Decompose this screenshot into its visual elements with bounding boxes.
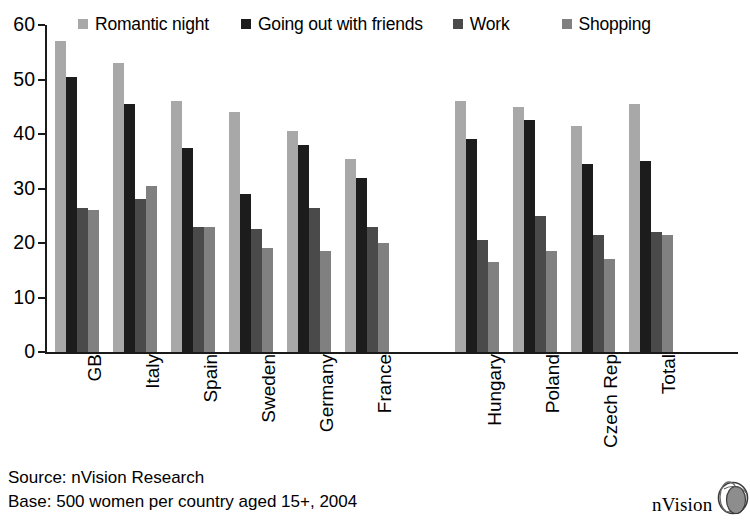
bar[interactable] bbox=[466, 139, 477, 352]
globe-icon bbox=[716, 480, 750, 520]
bar-group bbox=[629, 25, 673, 352]
bar[interactable] bbox=[251, 229, 262, 352]
bar[interactable] bbox=[571, 126, 582, 352]
bar[interactable] bbox=[135, 199, 146, 352]
bar-group bbox=[571, 25, 615, 352]
y-axis-tick-label: 60 bbox=[13, 15, 35, 35]
bar[interactable] bbox=[535, 216, 546, 352]
bar[interactable] bbox=[629, 104, 640, 352]
y-axis-tick-label: 50 bbox=[13, 70, 35, 90]
bar[interactable] bbox=[455, 101, 466, 352]
bar[interactable] bbox=[88, 210, 99, 352]
bar-group bbox=[171, 25, 215, 352]
y-axis-tick-label: 0 bbox=[24, 342, 35, 362]
bar[interactable] bbox=[546, 251, 557, 352]
x-axis-label: Total bbox=[658, 354, 680, 394]
x-axis-label: Sweden bbox=[258, 354, 280, 423]
bar[interactable] bbox=[582, 164, 593, 352]
x-axis-label: Italy bbox=[142, 354, 164, 389]
y-axis-tick bbox=[38, 24, 45, 26]
y-axis-tick bbox=[38, 133, 45, 135]
x-axis-label: Poland bbox=[542, 354, 564, 413]
y-axis-tick bbox=[38, 351, 45, 353]
bar-group bbox=[287, 25, 331, 352]
bar-group bbox=[229, 25, 273, 352]
bar[interactable] bbox=[367, 227, 378, 352]
x-axis-label: France bbox=[374, 354, 396, 413]
y-axis-tick bbox=[38, 188, 45, 190]
bar[interactable] bbox=[262, 248, 273, 352]
x-axis-label: Czech Rep bbox=[600, 354, 622, 448]
bar[interactable] bbox=[193, 227, 204, 352]
x-axis-category-labels: GBItalySpainSwedenGermanyFranceHungaryPo… bbox=[45, 354, 738, 449]
bar[interactable] bbox=[378, 243, 389, 352]
chart-footnote: Source: nVision Research Base: 500 women… bbox=[8, 466, 528, 514]
source-line: Source: nVision Research bbox=[8, 466, 528, 490]
x-axis-label: GB bbox=[84, 354, 106, 381]
base-line: Base: 500 women per country aged 15+, 20… bbox=[8, 490, 528, 514]
y-axis-tick bbox=[38, 242, 45, 244]
bar[interactable] bbox=[662, 235, 673, 352]
bar[interactable] bbox=[55, 41, 66, 352]
bar[interactable] bbox=[513, 107, 524, 352]
bar[interactable] bbox=[309, 208, 320, 352]
y-axis-tick-label: 30 bbox=[13, 179, 35, 199]
bar[interactable] bbox=[113, 63, 124, 352]
bar[interactable] bbox=[604, 259, 615, 352]
bar[interactable] bbox=[229, 112, 240, 352]
bar[interactable] bbox=[320, 251, 331, 352]
y-axis-tick bbox=[38, 79, 45, 81]
bar[interactable] bbox=[356, 178, 367, 352]
bar[interactable] bbox=[640, 161, 651, 352]
bar[interactable] bbox=[171, 101, 182, 352]
plot-area bbox=[45, 25, 738, 352]
y-axis-tick-label: 10 bbox=[13, 288, 35, 308]
bar-group bbox=[513, 25, 557, 352]
bar[interactable] bbox=[298, 145, 309, 352]
x-axis-label: Germany bbox=[316, 354, 338, 432]
y-axis-tick-label: 20 bbox=[13, 233, 35, 253]
bar-group bbox=[345, 25, 389, 352]
bar[interactable] bbox=[524, 120, 535, 352]
bar[interactable] bbox=[66, 77, 77, 352]
bar-groups bbox=[47, 25, 738, 352]
bar-group bbox=[55, 25, 99, 352]
bar[interactable] bbox=[345, 159, 356, 352]
x-axis-label: Spain bbox=[200, 354, 222, 403]
bar[interactable] bbox=[124, 104, 135, 352]
bar[interactable] bbox=[593, 235, 604, 352]
bar[interactable] bbox=[77, 208, 88, 352]
bar-group bbox=[455, 25, 499, 352]
bar[interactable] bbox=[204, 227, 215, 352]
nvision-logo: nVision bbox=[652, 480, 748, 526]
bar[interactable] bbox=[651, 232, 662, 352]
bar[interactable] bbox=[240, 194, 251, 352]
bar[interactable] bbox=[488, 262, 499, 352]
bar[interactable] bbox=[182, 148, 193, 352]
bar[interactable] bbox=[477, 240, 488, 352]
x-axis-label: Hungary bbox=[484, 354, 506, 426]
bar-group bbox=[113, 25, 157, 352]
y-axis-tick bbox=[38, 297, 45, 299]
bar[interactable] bbox=[146, 186, 157, 352]
logo-wordmark: nVision bbox=[652, 494, 712, 516]
bar[interactable] bbox=[287, 131, 298, 352]
y-axis-tick-label: 40 bbox=[13, 124, 35, 144]
